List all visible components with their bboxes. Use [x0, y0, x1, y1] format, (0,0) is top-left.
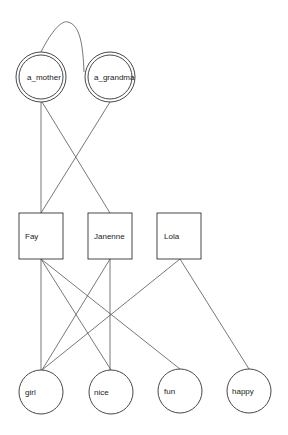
node-label: a_mother — [27, 73, 61, 82]
node-janenne[interactable]: Janenne — [88, 213, 132, 259]
edge-lola-girl — [42, 259, 180, 370]
node-label: Fay — [25, 232, 38, 241]
node-label: nice — [94, 388, 109, 397]
node-label: happy — [232, 387, 254, 396]
node-label: fun — [164, 387, 175, 396]
node-a_grandma[interactable]: a_grandma — [85, 52, 135, 102]
node-nice[interactable]: nice — [89, 370, 133, 414]
edge-janenne-girl — [42, 259, 110, 370]
edge-lola-happy — [180, 259, 249, 369]
node-girl[interactable]: girl — [19, 370, 63, 414]
graph-canvas: a_mother a_grandma Fay Janenne Lola girl… — [0, 0, 288, 435]
node-label: girl — [25, 388, 36, 397]
node-lola[interactable]: Lola — [157, 213, 201, 259]
node-a_mother[interactable]: a_mother — [16, 52, 66, 102]
node-label: Janenne — [94, 232, 125, 241]
node-label: a_grandma — [94, 73, 135, 82]
node-fay[interactable]: Fay — [19, 213, 63, 259]
node-fun[interactable]: fun — [158, 369, 202, 413]
node-label: Lola — [164, 232, 180, 241]
node-happy[interactable]: happy — [227, 369, 271, 413]
